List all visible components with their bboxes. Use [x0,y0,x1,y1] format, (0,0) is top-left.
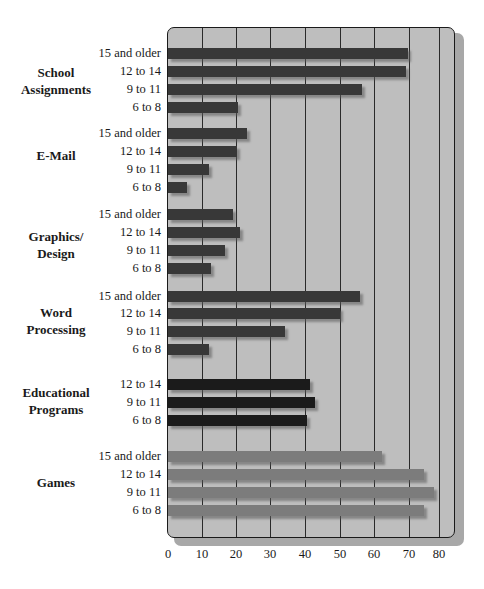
age-label: 9 to 11 [127,243,161,257]
age-label: 9 to 11 [127,82,161,96]
category-label: Assignments [0,81,112,98]
age-label: 6 to 8 [133,100,161,114]
age-label: 6 to 8 [133,180,161,194]
age-label: 9 to 11 [127,162,161,176]
category-label: Educational [0,384,112,401]
age-label: 9 to 11 [127,395,161,409]
bar [168,505,424,516]
bar [168,397,315,408]
category-label: Games [0,474,112,491]
age-label: 12 to 14 [120,377,161,391]
category-label: Graphics/ [0,228,112,245]
category-label: E-Mail [0,147,112,164]
age-label: 15 and older [99,289,161,303]
bar [168,291,360,302]
bar [168,84,362,95]
x-tick-label: 20 [230,547,243,562]
bar [168,487,434,498]
bar [168,344,209,355]
bar [168,245,225,256]
x-tick-label: 80 [433,547,446,562]
age-label: 9 to 11 [127,485,161,499]
age-label: 6 to 8 [133,503,161,517]
age-label: 12 to 14 [120,467,161,481]
bar [168,182,187,193]
x-tick-label: 10 [196,547,209,562]
x-tick-label: 40 [299,547,312,562]
x-tick-label: 30 [264,547,277,562]
age-label: 12 to 14 [120,306,161,320]
category-label: Processing [0,321,112,338]
bar [168,146,237,157]
age-label: 15 and older [99,207,161,221]
age-label: 12 to 14 [120,144,161,158]
gridline-80 [439,28,440,537]
bar [168,263,211,274]
bar [168,469,424,480]
age-label: 15 and older [99,449,161,463]
bar [168,66,406,77]
bar [168,308,340,319]
bar [168,48,408,59]
age-label: 15 and older [99,46,161,60]
age-label: 9 to 11 [127,324,161,338]
gridline-70 [409,28,410,537]
bar [168,209,233,220]
category-label: Design [0,245,112,262]
category-label: Programs [0,401,112,418]
x-tick-label: 60 [368,547,381,562]
bar [168,415,307,426]
age-label: 6 to 8 [133,261,161,275]
x-tick-label: 0 [165,547,171,562]
bar [168,128,247,139]
age-label: 15 and older [99,126,161,140]
category-label: Word [0,304,112,321]
bar [168,164,209,175]
x-tick-label: 50 [334,547,347,562]
bar [168,326,285,337]
bar [168,102,238,113]
age-label: 6 to 8 [133,342,161,356]
category-label: School [0,64,112,81]
age-label: 6 to 8 [133,413,161,427]
age-label: 12 to 14 [120,225,161,239]
age-label: 12 to 14 [120,64,161,78]
x-tick-label: 70 [403,547,416,562]
bar [168,379,310,390]
bar [168,227,240,238]
bar [168,451,382,462]
plot-area [167,27,455,538]
